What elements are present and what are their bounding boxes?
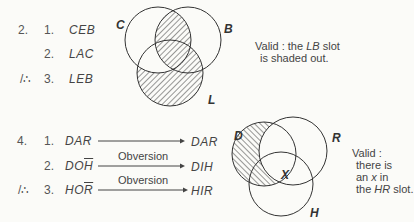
premise-2: LAC	[69, 47, 94, 61]
step-index: 3.	[44, 72, 54, 86]
label-c: C	[116, 18, 125, 32]
result-3: HIR	[191, 184, 213, 198]
problem-2-number: 2.	[18, 23, 28, 37]
validity-note-2: Valid : the LB slot is shaded out.	[255, 40, 340, 64]
label-r: R	[332, 131, 341, 145]
arrow-label-obversion: Obversion	[118, 150, 168, 162]
result-2: DIH	[191, 160, 213, 174]
conclusion: HOR	[65, 183, 93, 197]
step-index: 1.	[44, 23, 54, 37]
label-l: L	[208, 93, 215, 107]
conclusion: LEB	[69, 72, 93, 86]
step-index: 2.	[44, 159, 54, 173]
therefore-symbol: /∴	[18, 183, 29, 197]
premise-1: CEB	[69, 23, 95, 37]
problem-4-number: 4.	[17, 134, 27, 148]
step-index: 1.	[44, 134, 54, 148]
step-index: 3.	[44, 183, 54, 197]
label-h: H	[310, 206, 319, 220]
result-1: DAR	[191, 135, 218, 149]
step-index: 2.	[44, 47, 54, 61]
premise-2: DOH	[65, 159, 93, 173]
premise-1: DAR	[65, 134, 92, 148]
x-mark: X	[281, 168, 289, 182]
label-d: D	[234, 129, 243, 143]
label-b: B	[224, 22, 233, 36]
validity-note-4: Valid : there is an x in the HR slot.	[352, 147, 413, 195]
therefore-symbol: /∴	[20, 72, 31, 86]
arrow-label-obversion: Obversion	[118, 174, 168, 186]
